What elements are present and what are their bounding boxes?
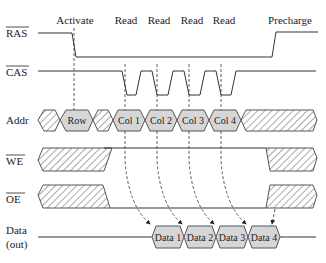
signal-label-we: WE [6, 155, 25, 167]
svg-text:WE: WE [6, 155, 23, 167]
ras-waveform [38, 32, 318, 57]
addr-hatch-2 [93, 110, 113, 131]
cas-waveform [38, 71, 316, 95]
phase-activate: Activate [56, 14, 93, 26]
signal-label-oe: OE [6, 193, 25, 205]
svg-text:Data 1: Data 1 [155, 232, 181, 243]
svg-text:Col 1: Col 1 [118, 115, 140, 126]
svg-text:Col 4: Col 4 [214, 115, 236, 126]
svg-text:CAS: CAS [6, 66, 27, 78]
signal-label-addr: Addr [6, 114, 29, 126]
phase-read-3: Read [181, 14, 204, 26]
svg-text:RAS: RAS [6, 27, 27, 39]
svg-text:OE: OE [6, 193, 21, 205]
svg-text:Row: Row [68, 115, 88, 126]
addr-bus: Row Col 1 Col 2 Col 3 Col 4 [38, 110, 317, 131]
oe-waveform [38, 185, 317, 208]
svg-text:Col 2: Col 2 [150, 115, 172, 126]
svg-text:Data 4: Data 4 [251, 232, 277, 243]
addr-hatch-1 [38, 110, 60, 131]
svg-text:Col 3: Col 3 [182, 115, 204, 126]
phase-read-1: Read [115, 14, 138, 26]
signal-label-ras: RAS [6, 27, 29, 39]
signal-label-cas: CAS [6, 66, 29, 78]
phase-read-4: Read [213, 14, 236, 26]
svg-text:Data 2: Data 2 [187, 232, 213, 243]
svg-text:Data 3: Data 3 [219, 232, 245, 243]
phase-read-2: Read [148, 14, 171, 26]
signal-label-data: Data [6, 224, 27, 236]
addr-hatch-3 [241, 110, 317, 131]
data-bus: Data 1 Data 2 Data 3 Data 4 [38, 226, 316, 248]
phase-precharge: Precharge [268, 14, 312, 26]
we-waveform [38, 148, 317, 171]
timing-diagram: Activate Read Read Read Read Precharge R… [0, 0, 326, 263]
signal-label-data-sub: (out) [6, 238, 28, 251]
